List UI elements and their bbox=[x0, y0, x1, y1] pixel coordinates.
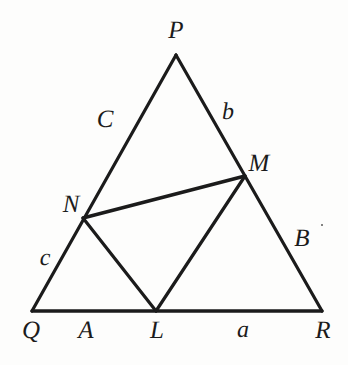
side-label-c-upper: C bbox=[97, 107, 114, 132]
edge-PR bbox=[176, 55, 322, 311]
point-label-l: L bbox=[150, 318, 164, 343]
geometry-figure: P Q R L M N C b B c A a bbox=[0, 0, 348, 365]
vertex-label-q: Q bbox=[22, 318, 40, 343]
side-label-a-upper: A bbox=[78, 318, 93, 343]
side-label-a-lower: a bbox=[237, 318, 249, 342]
vertex-label-r: R bbox=[315, 318, 330, 343]
side-label-c-lower: c bbox=[40, 246, 51, 270]
point-label-m: M bbox=[249, 151, 270, 176]
side-label-b-lower: b bbox=[222, 100, 234, 124]
point-label-n: N bbox=[63, 192, 80, 217]
edge-PQ bbox=[32, 55, 176, 311]
vertex-label-p: P bbox=[168, 18, 183, 43]
side-label-b-upper: B bbox=[294, 226, 309, 251]
triangle-diagram bbox=[0, 0, 348, 365]
scan-speck bbox=[321, 224, 323, 226]
edge-NL bbox=[83, 218, 156, 311]
